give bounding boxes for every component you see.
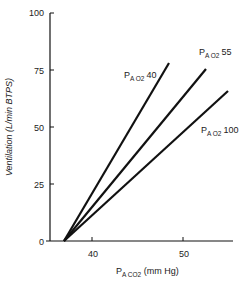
label-pao2-55: PA O255 — [199, 47, 232, 59]
y-tick-label-75: 75 — [34, 66, 44, 76]
label-pao2-40: PA O240 — [124, 70, 157, 82]
x-tick-label-50: 50 — [179, 249, 189, 259]
x-tick-label-40: 40 — [88, 249, 98, 259]
label-pao2-100: PA O2100 — [201, 125, 239, 137]
line-pao2-55 — [64, 69, 206, 241]
y-tick-label-100: 100 — [29, 8, 44, 18]
y-tick-label-50: 50 — [34, 123, 44, 133]
x-tick-labels: 40 50 — [88, 249, 189, 259]
y-tick-labels: 100 75 50 25 0 — [29, 8, 44, 247]
y-tick-label-25: 25 — [34, 180, 44, 190]
y-axis-label: Ventilation (L/min BTPS) — [4, 78, 14, 176]
y-tick-label-0: 0 — [39, 237, 44, 247]
x-axis-label: PA CO2 (mm Hg) — [116, 266, 179, 278]
ventilation-chart: 100 75 50 25 0 40 50 Ventilation (L/min … — [0, 0, 249, 284]
line-pao2-40 — [64, 63, 169, 241]
data-lines — [64, 63, 228, 241]
line-pao2-100 — [64, 91, 228, 241]
